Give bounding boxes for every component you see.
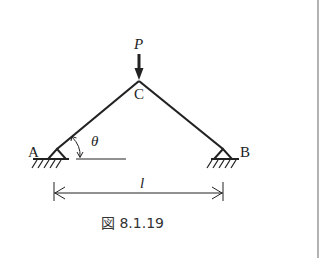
figure-caption: 図 8.1.19: [101, 215, 164, 231]
pin-support-b-icon: [207, 149, 239, 168]
angle-label: θ: [91, 133, 99, 149]
load-arrow-icon: [135, 54, 144, 80]
support-a-label: A: [28, 144, 39, 160]
load-label: P: [133, 36, 143, 52]
span-label: l: [140, 175, 144, 191]
truss-diagram: P C A B θ l 図 8.1.19: [0, 0, 326, 258]
angle-arc-icon: [71, 137, 83, 158]
support-b-label: B: [240, 144, 250, 160]
apex-label: C: [134, 86, 144, 102]
member-cb: [139, 81, 223, 149]
span-dimension: [54, 182, 223, 201]
